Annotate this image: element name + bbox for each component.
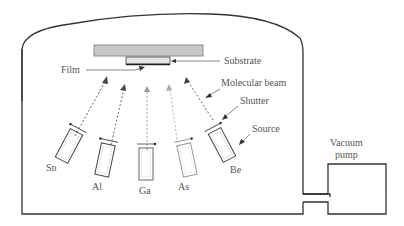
film [126, 57, 170, 64]
source-as [174, 137, 201, 177]
vacuum-pump-label-line2: pump [335, 149, 358, 160]
vacuum-pump-label-line1: Vacuum [330, 137, 363, 148]
mbe-diagram: Substrate Film Molecular beam Shutter So… [0, 0, 404, 226]
source-sn-label: Sn [46, 162, 57, 173]
pump-pipe [303, 164, 386, 214]
molecular-beam-label: Molecular beam [221, 77, 286, 88]
substrate [94, 45, 203, 56]
beam-arrowheads [102, 76, 190, 92]
source-al [92, 137, 119, 177]
substrate-label: Substrate [224, 55, 262, 66]
source-ga [137, 143, 156, 180]
source-as-label: As [178, 181, 189, 192]
source-label: Source [252, 123, 280, 134]
source-be [204, 121, 238, 163]
source-sn [52, 122, 86, 164]
source-be-label: Be [230, 164, 242, 175]
source-al-label: Al [92, 181, 102, 192]
chamber-outline [22, 14, 330, 197]
source-ga-label: Ga [139, 185, 151, 196]
shutter-label: Shutter [240, 95, 270, 106]
film-label: Film [61, 64, 80, 75]
